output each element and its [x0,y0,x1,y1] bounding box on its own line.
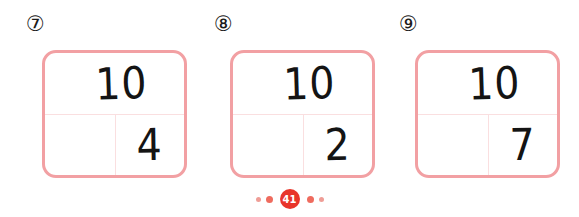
part-left-cell[interactable] [233,115,303,175]
problem-number-label: ⑧ [214,14,233,35]
decorative-dot-icon [307,196,314,203]
number-bond-box: 10 4 [42,50,187,178]
decorative-dot-icon [266,196,273,203]
page-footer: 41 [0,186,579,212]
whole-row: 10 [418,53,557,114]
problem-item: ⑦ 10 4 [18,0,208,190]
whole-cell: 10 [233,53,372,114]
whole-cell: 10 [45,53,184,114]
number-bond-box: 10 2 [230,50,375,178]
whole-value: 10 [81,60,147,106]
whole-row: 10 [233,53,372,114]
part-right-cell[interactable]: 2 [303,115,373,175]
part-left-cell[interactable] [418,115,488,175]
problem-item: ⑧ 10 2 [206,0,396,190]
whole-value: 10 [454,60,520,106]
part-right-cell[interactable]: 7 [488,115,558,175]
decorative-dot-icon [319,197,324,202]
decorative-dot-icon [256,197,261,202]
part-right-value: 2 [324,123,351,167]
part-right-value: 4 [136,123,163,167]
problem-item: ⑨ 10 7 [391,0,579,190]
whole-row: 10 [45,53,184,114]
problem-number-label: ⑦ [26,14,45,35]
parts-row: 2 [233,114,372,175]
problem-number-label: ⑨ [399,14,418,35]
worksheet-page: ⑦ 10 4 ⑧ 10 [0,0,579,217]
whole-value: 10 [269,60,335,106]
part-left-cell[interactable] [45,115,115,175]
number-bond-box: 10 7 [415,50,560,178]
parts-row: 4 [45,114,184,175]
part-right-cell[interactable]: 4 [115,115,185,175]
part-right-value: 7 [509,123,536,167]
page-number-badge: 41 [280,189,300,209]
parts-row: 7 [418,114,557,175]
whole-cell: 10 [418,53,557,114]
